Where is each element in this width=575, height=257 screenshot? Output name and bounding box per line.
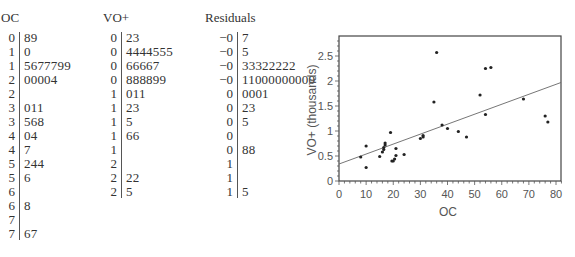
- data-point: [440, 123, 443, 126]
- x-tick-label: 40: [441, 188, 453, 200]
- data-point: [365, 144, 368, 147]
- y-tick-label: 0: [327, 175, 333, 187]
- x-axis-label: OC: [439, 205, 457, 219]
- data-point: [394, 147, 397, 150]
- data-point: [432, 100, 435, 103]
- plot-frame: [339, 36, 561, 181]
- data-point: [484, 67, 487, 70]
- regression-line: [339, 83, 561, 165]
- y-axis-label: VO+ (thousands): [305, 64, 319, 155]
- x-axis: 01020304050607080: [336, 181, 562, 200]
- data-point: [359, 155, 362, 158]
- x-tick-label: 10: [360, 188, 372, 200]
- scatter-plot: 01020304050607080 00.511.522.5 OC VO+ (t…: [0, 0, 575, 257]
- data-point: [389, 131, 392, 134]
- x-tick-label: 80: [550, 188, 562, 200]
- data-point: [489, 66, 492, 69]
- data-point: [393, 157, 396, 160]
- x-tick-label: 30: [414, 188, 426, 200]
- y-tick-label: 1: [327, 125, 333, 137]
- y-tick-label: 1.5: [318, 100, 333, 112]
- data-point: [384, 141, 387, 144]
- data-point: [435, 51, 438, 54]
- data-point: [403, 153, 406, 156]
- data-point: [421, 134, 424, 137]
- x-tick-label: 70: [523, 188, 535, 200]
- x-tick-label: 50: [469, 188, 481, 200]
- y-tick-label: 2: [327, 75, 333, 87]
- data-point: [484, 113, 487, 116]
- data-point: [478, 93, 481, 96]
- data-point: [546, 120, 549, 123]
- x-tick-label: 20: [387, 188, 399, 200]
- data-point: [446, 127, 449, 130]
- data-point: [522, 97, 525, 100]
- data-points: [359, 51, 549, 169]
- x-tick-label: 0: [336, 188, 342, 200]
- data-point: [419, 137, 422, 140]
- data-point: [365, 166, 368, 169]
- y-axis: 00.511.522.5: [318, 41, 339, 187]
- x-tick-label: 60: [496, 188, 508, 200]
- data-point: [378, 155, 381, 158]
- data-point: [544, 114, 547, 117]
- data-point: [457, 130, 460, 133]
- y-tick-label: 0.5: [318, 150, 333, 162]
- data-point: [465, 135, 468, 138]
- data-point: [394, 154, 397, 157]
- y-tick-label: 2.5: [318, 50, 333, 62]
